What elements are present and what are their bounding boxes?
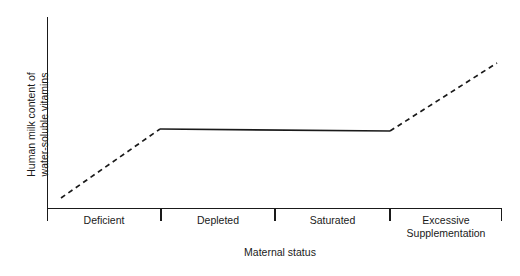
y-axis-title-line1: Human milk content of [25,72,37,176]
x-category-label-excessive-line2: Supplementation [407,227,486,239]
y-axis-title: Human milk content ofwater-soluble vitam… [25,35,50,215]
x-category-label-deficient: Deficient [47,214,161,227]
y-axis-title-line2: water-soluble vitamins [37,73,49,177]
series-segment-deficient-dashed [61,129,160,198]
x-category-label-excessive-supplementation: ExcessiveSupplementation [390,214,502,239]
x-category-label-depleted: Depleted [161,214,275,227]
x-category-label-saturated-text: Saturated [310,214,356,226]
x-category-label-saturated: Saturated [275,214,390,227]
series-segment-excessive-dashed [390,63,497,131]
x-category-label-deficient-text: Deficient [84,214,125,226]
x-category-label-depleted-text: Depleted [197,214,239,226]
x-category-label-excessive-line1: Excessive [422,214,469,226]
x-axis-title: Maternal status [180,246,380,258]
series-segment-plateau-solid [160,129,390,131]
chart-figure: Human milk content ofwater-soluble vitam… [0,0,520,276]
